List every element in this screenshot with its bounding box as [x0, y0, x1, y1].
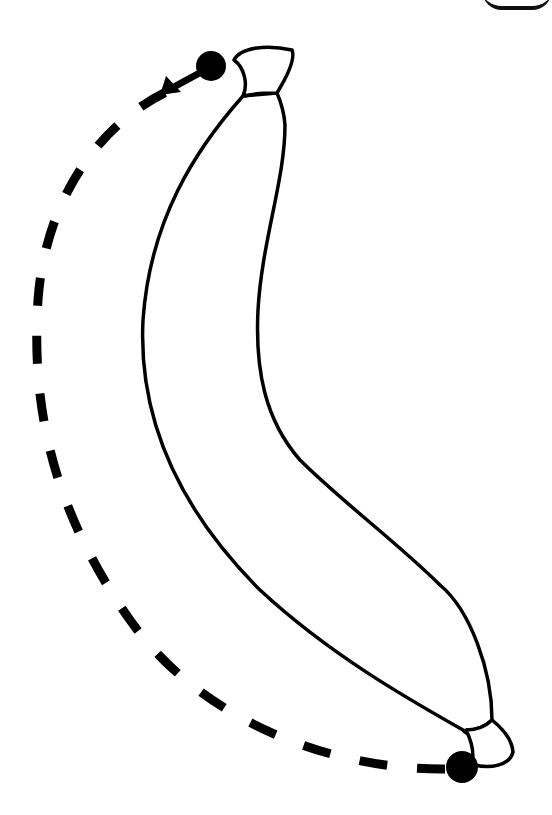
banana-body: [143, 93, 492, 734]
end-point-dot: [196, 51, 226, 81]
banana-stem: [234, 47, 293, 96]
start-point-dot: [446, 751, 478, 783]
